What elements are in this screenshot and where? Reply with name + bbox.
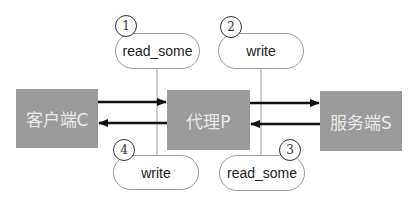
step-4-badge: 4	[113, 139, 135, 161]
step-1-badge: 1	[115, 15, 137, 37]
client-node: 客户端C	[16, 89, 98, 148]
step-1-pill: read_some	[115, 33, 200, 69]
step-2-pill: write	[218, 33, 304, 69]
step-3-badge: 3	[279, 139, 301, 161]
step-3-label: read_some	[227, 165, 297, 181]
step-4-label: write	[141, 165, 171, 181]
server-node: 服务端S	[320, 91, 402, 151]
step-2-label: write	[246, 43, 276, 59]
proxy-node: 代理P	[167, 90, 250, 150]
step-1-label: read_some	[122, 43, 192, 59]
step-2-badge: 2	[220, 16, 242, 38]
